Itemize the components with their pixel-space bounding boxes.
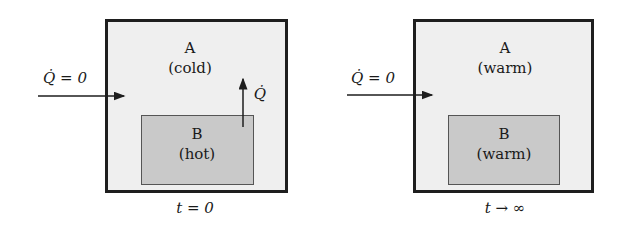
arrows-layer [0, 0, 621, 233]
